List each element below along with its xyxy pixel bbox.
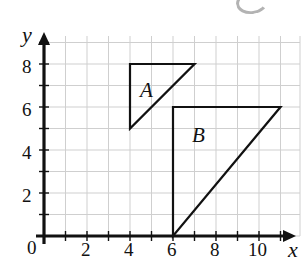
coordinate-grid-figure: y x 0 2 4 6 8 10 2 4 6 8 A B [0,0,308,269]
x-tick-label-4: 4 [124,240,134,259]
y-axis-label: y [22,24,32,46]
x-tick-label-6: 6 [167,240,177,259]
x-axis-label: x [288,239,298,261]
y-tick-label-6: 6 [22,100,32,119]
y-tick-label-2: 2 [22,186,32,205]
origin-label: 0 [27,238,37,257]
triangle-b-label: B [192,125,205,146]
plot-canvas [0,0,308,269]
y-tick-label-4: 4 [22,143,32,162]
x-tick-label-8: 8 [210,240,220,259]
y-tick-label-8: 8 [22,57,32,76]
x-tick-label-2: 2 [81,240,91,259]
x-tick-label-10: 10 [248,240,267,259]
triangle-a-label: A [140,80,153,101]
